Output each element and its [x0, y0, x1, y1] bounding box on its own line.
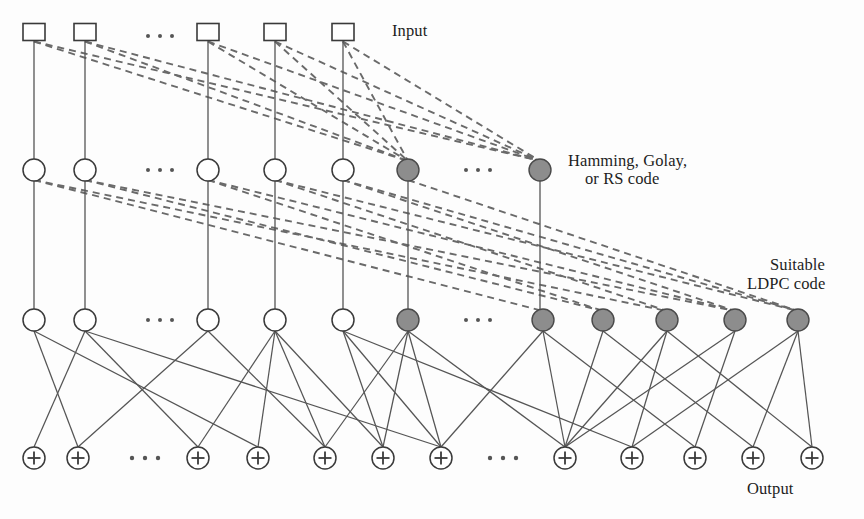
ellipsis-ellipsis-input [146, 34, 174, 38]
node-group [23, 24, 823, 470]
ellipsis-group [130, 34, 518, 460]
diagram-canvas: InputHamming, Golay,or RS codeSuitableLD… [0, 0, 864, 519]
hidden-node-open[interactable] [264, 159, 286, 181]
solid-edge-variable-to-check [78, 331, 208, 447]
solid-edge-variable-to-check [565, 331, 603, 447]
solid-edge-variable-to-check [632, 331, 798, 447]
input-node-square[interactable] [23, 24, 45, 41]
solid-edge-variable-to-check [667, 331, 812, 447]
input-node-square[interactable] [264, 24, 286, 41]
dashed-edge-input-to-hidden [275, 42, 408, 162]
label-code2a: Suitable [770, 255, 825, 274]
variable-node-open[interactable] [264, 309, 286, 331]
dashed-edge-hidden-to-variable [275, 180, 667, 311]
variable-node-filled[interactable] [532, 309, 554, 331]
input-node-square[interactable] [197, 24, 219, 41]
solid-edge-variable-to-check [603, 331, 753, 447]
dashed-edge-input-to-hidden [208, 42, 540, 162]
dashed-edge-hidden-to-variable [343, 180, 735, 311]
check-node-plus[interactable] [372, 447, 394, 469]
ellipsis-dot [476, 318, 480, 322]
check-node-plus[interactable] [187, 447, 209, 469]
check-node-plus[interactable] [247, 447, 269, 469]
check-node-plus[interactable] [621, 447, 643, 469]
solid-edge-variable-to-check [543, 331, 565, 447]
check-node-plus[interactable] [554, 447, 576, 469]
ellipsis-dot [130, 456, 134, 460]
solid-edge-variable-to-check [441, 331, 543, 447]
dashed-edge-hidden-to-variable [208, 180, 603, 311]
ellipsis-dot [476, 168, 480, 172]
ellipsis-dot [156, 456, 160, 460]
solid-edge-variable-to-check [408, 331, 565, 447]
dashed-edge-input-to-hidden [85, 42, 408, 162]
dashed-edge-input-to-hidden [34, 42, 408, 162]
solid-edge-variable-to-check [565, 331, 667, 447]
solid-edge-variable-to-check [34, 331, 85, 447]
ellipsis-dot [170, 34, 174, 38]
dashed-edge-input-to-hidden [343, 42, 408, 162]
solid-edge-variable-to-check [798, 331, 812, 447]
ellipsis-dot [146, 168, 150, 172]
hidden-node-open[interactable] [74, 159, 96, 181]
ellipsis-ellipsis-hidden-r [464, 168, 492, 172]
ellipsis-dot [146, 318, 150, 322]
solid-edge-group [34, 331, 812, 447]
solid-edge-variable-to-check [85, 331, 198, 447]
variable-node-open[interactable] [332, 309, 354, 331]
ellipsis-dot [464, 168, 468, 172]
dashed-edge-hidden-to-variable [85, 180, 735, 311]
ellipsis-dot [143, 456, 147, 460]
label-output: Output [747, 479, 794, 498]
hidden-node-filled[interactable] [397, 159, 419, 181]
hidden-node-open[interactable] [23, 159, 45, 181]
variable-node-open[interactable] [197, 309, 219, 331]
variable-node-filled[interactable] [787, 309, 809, 331]
solid-edge-variable-to-check [408, 331, 441, 447]
ellipsis-ellipsis-var [146, 318, 174, 322]
solid-edge-variable-to-check [543, 331, 695, 447]
hidden-node-open[interactable] [332, 159, 354, 181]
hidden-node-open[interactable] [197, 159, 219, 181]
variable-node-filled[interactable] [397, 309, 419, 331]
ellipsis-dot [488, 456, 492, 460]
solid-edge-variable-to-check [34, 331, 78, 447]
ellipsis-ellipsis-hidden [146, 168, 174, 172]
input-node-square[interactable] [332, 24, 354, 41]
input-node-square[interactable] [74, 24, 96, 41]
label-code1b: or RS code [585, 169, 659, 188]
solid-edge-variable-to-check [275, 331, 325, 447]
hidden-node-filled[interactable] [529, 159, 551, 181]
dashed-edge-input-to-hidden [208, 42, 408, 162]
ellipsis-dot [158, 168, 162, 172]
ellipsis-dot [158, 318, 162, 322]
dashed-edge-input-to-hidden [34, 42, 540, 162]
label-code2b: LDPC code [747, 274, 825, 293]
check-node-plus[interactable] [67, 447, 89, 469]
variable-node-filled[interactable] [592, 309, 614, 331]
check-node-plus[interactable] [314, 447, 336, 469]
solid-edge-variable-to-check [34, 331, 258, 447]
ellipsis-dot [501, 456, 505, 460]
variable-node-filled[interactable] [724, 309, 746, 331]
ellipsis-dot [488, 168, 492, 172]
check-node-plus[interactable] [742, 447, 764, 469]
label-code1a: Hamming, Golay, [568, 151, 687, 170]
check-node-plus[interactable] [430, 447, 452, 469]
variable-node-open[interactable] [74, 309, 96, 331]
ellipsis-dot [146, 34, 150, 38]
check-node-plus[interactable] [684, 447, 706, 469]
variable-node-open[interactable] [23, 309, 45, 331]
variable-node-filled[interactable] [656, 309, 678, 331]
check-node-plus[interactable] [801, 447, 823, 469]
ellipsis-dot [158, 34, 162, 38]
ellipsis-dot [170, 318, 174, 322]
dashed-edge-hidden-to-variable [343, 180, 798, 311]
solid-edge-variable-to-check [258, 331, 275, 447]
dashed-edge-input-to-hidden [343, 42, 540, 162]
ellipsis-dot [464, 318, 468, 322]
check-node-plus[interactable] [23, 447, 45, 469]
solid-edge-variable-to-check [343, 331, 383, 447]
ellipsis-dot [514, 456, 518, 460]
ellipsis-ellipsis-var-r [464, 318, 492, 322]
